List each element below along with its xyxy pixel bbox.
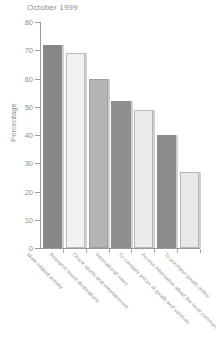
bar-edge-shadow <box>176 135 178 248</box>
chart-title: October 1999 <box>27 3 78 12</box>
y-tick-mark <box>35 22 40 23</box>
bar-body <box>89 79 108 249</box>
y-axis-line <box>40 22 41 249</box>
bar-edge-shadow <box>131 101 133 248</box>
bar-body <box>43 45 62 248</box>
bar-body <box>111 101 130 248</box>
bar-edge-shadow <box>62 45 64 248</box>
bar-body <box>180 172 199 248</box>
x-axis-line <box>40 248 200 249</box>
y-tick-mark <box>35 192 40 193</box>
y-tick-mark <box>35 107 40 108</box>
bar-edge-shadow <box>85 53 87 248</box>
y-tick-mark <box>35 163 40 164</box>
y-tick-label: 40 <box>0 131 33 140</box>
x-tick-mark <box>154 249 155 253</box>
bar-body <box>157 135 176 248</box>
bar-chart: October 1999 Percentage 0102030405060708… <box>0 0 216 355</box>
bar <box>180 172 199 248</box>
y-tick-label: 80 <box>0 18 33 27</box>
bar <box>134 110 153 248</box>
bar <box>43 45 62 248</box>
bar-edge-shadow <box>199 172 201 248</box>
bar-body <box>134 110 153 248</box>
y-tick-label: 70 <box>0 46 33 55</box>
bar <box>89 79 108 249</box>
y-tick-mark <box>35 135 40 136</box>
bar-edge-shadow <box>108 79 110 249</box>
y-tick-mark <box>35 50 40 51</box>
x-tick-mark <box>200 249 201 253</box>
bar <box>157 135 176 248</box>
y-tick-label: 30 <box>0 159 33 168</box>
bar-body <box>66 53 85 248</box>
x-tick-mark <box>177 249 178 253</box>
bar-edge-shadow <box>153 110 155 248</box>
bar <box>111 101 130 248</box>
y-tick-label: 60 <box>0 74 33 83</box>
x-tick-mark <box>63 249 64 253</box>
x-tick-mark <box>109 249 110 253</box>
y-tick-mark <box>35 220 40 221</box>
x-tick-mark <box>86 249 87 253</box>
x-tick-mark <box>131 249 132 253</box>
y-tick-mark <box>35 248 40 249</box>
bar <box>66 53 85 248</box>
y-tick-label: 20 <box>0 187 33 196</box>
y-axis-title: Percentage <box>9 88 18 158</box>
y-tick-label: 10 <box>0 215 33 224</box>
y-tick-label: 50 <box>0 102 33 111</box>
y-tick-mark <box>35 79 40 80</box>
